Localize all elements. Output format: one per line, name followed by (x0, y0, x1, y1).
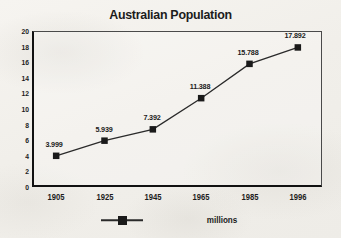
data-point-label-1905: 3.999 (46, 140, 63, 149)
data-point-marker-1905 (53, 153, 60, 160)
y-tick-label-4: 4 (6, 151, 29, 160)
y-tick-label-20: 20 (6, 27, 29, 36)
data-point-label-1945: 7.392 (143, 113, 160, 122)
y-axis: 02468101214161820 (0, 31, 29, 187)
data-point-marker-1985 (246, 61, 253, 68)
y-tick-label-18: 18 (6, 42, 29, 51)
data-point-marker-1996 (295, 44, 302, 51)
x-tick-label-1905: 1905 (48, 192, 65, 202)
data-point-label-1996: 17.892 (284, 31, 305, 40)
y-tick-label-0: 0 (6, 183, 29, 192)
y-tick-label-14: 14 (6, 73, 29, 82)
series-line (56, 47, 298, 155)
data-series-millions (32, 31, 322, 187)
y-tick-label-12: 12 (6, 89, 29, 98)
x-tick-label-1925: 1925 (96, 192, 113, 202)
legend-label-millions: millions (207, 215, 238, 225)
data-point-marker-1925 (101, 137, 108, 144)
x-tick-label-1996: 1996 (289, 192, 306, 202)
plot-area: 3.9995.9397.39211.38815.78817.892 (32, 31, 322, 187)
data-point-marker-1945 (150, 126, 157, 133)
data-point-label-1965: 11.388 (190, 82, 211, 91)
y-tick-label-10: 10 (6, 105, 29, 114)
data-point-marker-1965 (198, 95, 205, 102)
x-tick-label-1945: 1945 (144, 192, 161, 202)
legend-line-swatch (101, 214, 143, 226)
x-axis: 190519251945196519851996 (32, 192, 322, 206)
y-tick-label-2: 2 (6, 167, 29, 176)
y-tick-label-8: 8 (6, 120, 29, 129)
y-tick-label-6: 6 (6, 136, 29, 145)
x-tick-label-1985: 1985 (241, 192, 258, 202)
chart-legend: millions (0, 214, 341, 226)
population-line-chart: Australian Population 02468101214161820 … (0, 0, 341, 238)
data-point-label-1925: 5.939 (95, 125, 112, 134)
data-point-label-1985: 15.788 (237, 48, 258, 57)
x-tick-label-1965: 1965 (193, 192, 210, 202)
chart-title: Australian Population (14, 7, 328, 22)
legend-square-marker (118, 216, 127, 225)
y-tick-label-16: 16 (6, 58, 29, 67)
